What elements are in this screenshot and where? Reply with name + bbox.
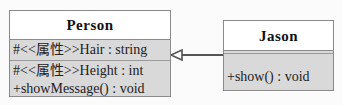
class-jason-operations: +show() : void (224, 54, 333, 86)
class-person-name: Person (10, 11, 170, 40)
operation-show: +show() : void (227, 68, 333, 86)
attribute-height: #<<属性>>Height : int (13, 62, 170, 80)
class-jason-name: Jason (224, 21, 333, 51)
operation-show-message: +showMessage() : void (13, 80, 170, 98)
class-person-attributes: #<<属性>>Hair : string (10, 40, 170, 61)
class-person[interactable]: Person #<<属性>>Hair : string #<<属性>>Heigh… (9, 10, 171, 97)
attribute-hair: #<<属性>>Hair : string (13, 40, 170, 60)
class-person-operations: #<<属性>>Height : int +showMessage() : voi… (10, 61, 170, 98)
class-jason[interactable]: Jason +show() : void (223, 20, 334, 91)
